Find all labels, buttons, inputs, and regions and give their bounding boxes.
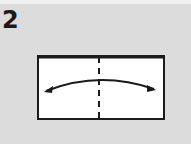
fold-diagram xyxy=(0,0,191,144)
